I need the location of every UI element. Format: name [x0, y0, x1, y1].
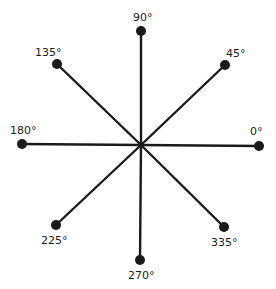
spoke-endpoint-dot [17, 139, 27, 149]
direction-diagram: 0°45°90°135°180°225°270°335° [0, 0, 276, 289]
spoke-line [141, 145, 259, 146]
spoke-endpoint-dot [220, 60, 230, 70]
spoke-line [56, 145, 141, 225]
spoke-endpoint-dot [51, 220, 61, 230]
spoke-endpoint-dot [219, 222, 229, 232]
angle-label: 135° [35, 47, 62, 58]
angle-label: 45° [226, 48, 246, 59]
spoke-line [22, 144, 141, 145]
angle-label: 335° [211, 237, 238, 248]
angle-label: 180° [10, 125, 37, 136]
spoke-line [140, 145, 141, 260]
angle-label: 270° [128, 270, 155, 281]
spoke-line [141, 145, 224, 227]
spoke-endpoint-dot [52, 59, 62, 69]
spoke-endpoint-dot [254, 141, 264, 151]
angle-label: 225° [41, 235, 68, 246]
spoke-line [57, 64, 141, 145]
angle-label: 0° [250, 126, 263, 137]
angle-label: 90° [133, 12, 153, 23]
spoke-line [141, 65, 225, 145]
spoke-endpoint-dot [135, 255, 145, 265]
spoke-endpoint-dot [136, 26, 146, 36]
